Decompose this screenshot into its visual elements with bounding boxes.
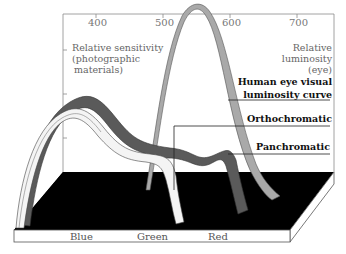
right-axis-label-line: luminosity xyxy=(282,53,332,64)
tick-500: 500 xyxy=(155,17,174,28)
legend-eye: Human eye visual luminosity curve xyxy=(238,75,332,101)
tick-400: 400 xyxy=(88,17,107,28)
left-axis-label-line: Relative sensitivity xyxy=(72,42,163,53)
right-axis-label-line: (eye) xyxy=(282,64,332,75)
tick-600: 600 xyxy=(222,17,241,28)
legend-eye-line: Human eye visual xyxy=(238,75,332,88)
left-axis-label-line: (photographic xyxy=(72,53,163,64)
right-axis-label-line: Relative xyxy=(282,42,332,53)
left-axis-label: Relative sensitivity (photographic mater… xyxy=(72,42,163,75)
legend-panchromatic: Panchromatic xyxy=(256,140,330,153)
legend-orthochromatic: Orthochromatic xyxy=(247,112,332,125)
base-label-green: Green xyxy=(137,231,168,242)
base-label-red: Red xyxy=(208,231,228,242)
spectral-sensitivity-diagram: 400 500 600 700 Relative sensitivity (ph… xyxy=(0,0,346,254)
tick-700: 700 xyxy=(289,17,308,28)
base-label-blue: Blue xyxy=(70,231,93,242)
legend-eye-line: luminosity curve xyxy=(238,88,332,101)
diagram-canvas xyxy=(0,0,346,254)
left-axis-label-line: materials) xyxy=(72,64,163,75)
right-axis-label: Relative luminosity (eye) xyxy=(282,42,332,75)
